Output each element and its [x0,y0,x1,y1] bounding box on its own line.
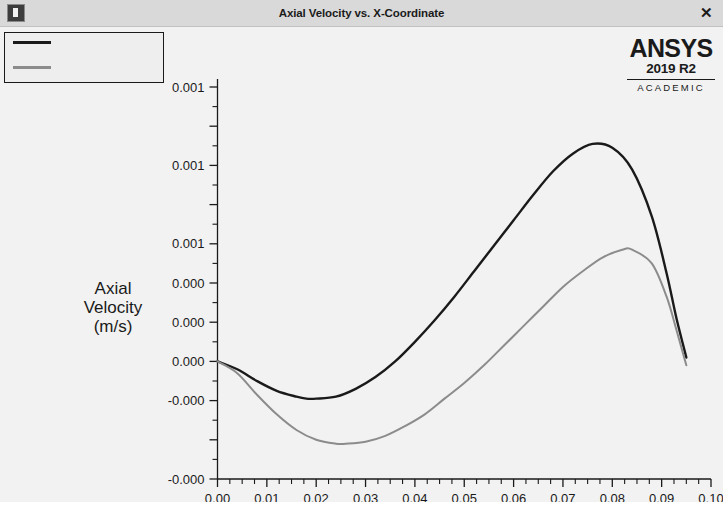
plot-window: Axial Velocity vs. X-Coordinate ✕ ANSYS … [0,0,723,530]
y-tick-label: 0.000 [172,354,205,369]
y-tick-label: -0.000 [168,393,205,408]
figure-caption-strip [0,508,723,530]
y-tick-label: -0.000 [168,472,205,487]
y-tick-label: 0.000 [172,276,205,291]
x-tick-label: 0.08 [600,491,625,502]
chart-series [218,143,687,444]
window-titlebar: Axial Velocity vs. X-Coordinate ✕ [0,0,723,27]
x-tick-label: 0.03 [353,491,378,502]
x-tick-label: 0.05 [452,491,477,502]
x-tick-label: 0.10 [698,491,723,502]
y-tick-label: 0.001 [172,158,205,173]
x-tick-label: 0.06 [501,491,526,502]
x-tick-label: 0.04 [402,491,427,502]
y-axis: 0.0010.0010.0010.0000.0000.000-0.000-0.0… [168,79,218,487]
close-icon[interactable]: ✕ [695,3,717,23]
x-tick-label: 0.02 [304,491,329,502]
x-tick-label: 0.09 [649,491,674,502]
y-tick-label: 0.000 [172,315,205,330]
y-tick-label: 0.001 [172,236,205,251]
x-tick-label: 0.00 [205,491,230,502]
chart-svg: 0.0010.0010.0010.0000.0000.000-0.000-0.0… [0,27,723,502]
x-tick-label: 0.07 [550,491,575,502]
x-axis: 0.000.010.020.030.040.050.060.070.080.09… [205,479,723,502]
window-icon [7,4,25,22]
y-tick-label: 0.001 [172,80,205,95]
series-curve-2 [218,248,687,444]
window-title: Axial Velocity vs. X-Coordinate [0,7,723,19]
plot-canvas: ANSYS 2019 R2 ACADEMIC Axial Velocity (m… [0,27,723,502]
series-curve-1 [218,143,687,398]
x-tick-label: 0.01 [254,491,279,502]
